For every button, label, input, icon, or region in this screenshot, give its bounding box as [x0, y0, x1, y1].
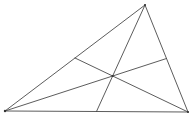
median-from-c: [97, 5, 146, 112]
vertex-c-marker: [144, 4, 146, 6]
triangle-edges: [5, 5, 188, 112]
triangle-medians-diagram: [0, 0, 192, 124]
centroid-marker: [112, 75, 114, 77]
median-from-a: [5, 59, 167, 112]
vertex-a-marker: [4, 110, 6, 112]
vertex-markers: [4, 4, 189, 113]
median-from-b: [75, 58, 188, 112]
vertex-b-marker: [187, 111, 189, 113]
triangle-medians: [5, 5, 188, 112]
